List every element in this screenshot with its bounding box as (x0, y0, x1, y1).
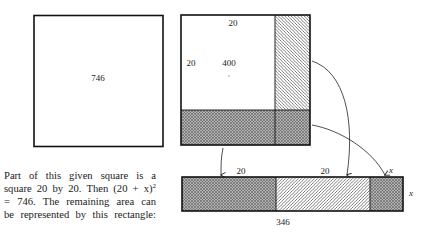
segment-right-strip (276, 177, 370, 211)
caption-line-2: square 20 by 20. Then (20 + x)2 (4, 182, 156, 195)
segment-corner-square (370, 177, 403, 211)
remainder-area-label: 346 (276, 217, 290, 227)
caption-line-1: Part of this given square is a (4, 169, 156, 182)
caption: Part of this given square is a square 20… (4, 169, 156, 221)
caption-line-2-text: square 20 by 20. Then (20 + x) (4, 183, 153, 194)
corner-square-shaded (275, 110, 310, 145)
decomposed-square: 20 20 400 (181, 15, 310, 145)
given-square-area-label: 746 (91, 73, 105, 83)
inner-square-area-label: 400 (222, 58, 236, 68)
height-label: x (408, 188, 413, 198)
segment-label-3: x (388, 165, 393, 175)
segment-label-1: 20 (237, 166, 247, 176)
arrow-right-strip (312, 61, 350, 175)
segment-bottom-strip (182, 177, 276, 211)
caption-line-3: = 746. The remaining area can (4, 195, 156, 208)
bottom-strip-shaded (181, 110, 275, 145)
segment-label-2: 20 (321, 166, 331, 176)
caption-exponent: 2 (153, 182, 157, 190)
given-square: 746 (34, 16, 163, 147)
caption-line-4: be represented by this rectangle: (4, 208, 156, 221)
top-side-label: 20 (229, 18, 239, 28)
arrow-bottom-strip (221, 148, 223, 175)
center-dot (228, 75, 230, 77)
left-side-label: 20 (187, 58, 197, 68)
remainder-rectangle: 20 20 x x 346 (182, 165, 413, 227)
right-strip-hatched (275, 15, 310, 110)
